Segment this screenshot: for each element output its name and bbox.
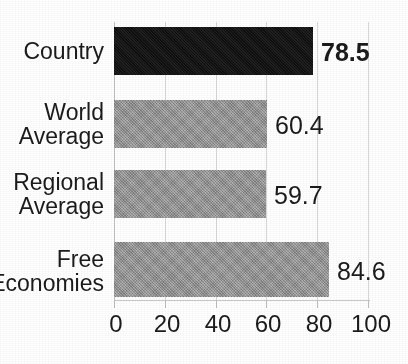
category-label-regional-average: Regional Average bbox=[13, 171, 104, 218]
x-tick-100 bbox=[368, 300, 369, 308]
x-tick-60 bbox=[266, 300, 267, 308]
bar-world-average bbox=[114, 100, 267, 148]
x-tick-40 bbox=[216, 300, 217, 308]
x-tick-80 bbox=[317, 300, 318, 308]
value-label-regional-average: 59.7 bbox=[274, 183, 323, 208]
bar-fill bbox=[114, 100, 267, 148]
bar-fill bbox=[114, 27, 313, 75]
category-label-world-average: World Average bbox=[19, 101, 104, 148]
category-label-line1: Regional bbox=[13, 171, 104, 195]
x-axis-line bbox=[114, 300, 370, 301]
category-label-line2: Average bbox=[13, 195, 104, 219]
category-label-country: Country bbox=[23, 40, 104, 64]
category-label-line1: Country bbox=[23, 40, 104, 64]
category-label-line2: Average bbox=[19, 125, 104, 149]
category-label-line1: Free bbox=[0, 248, 104, 272]
bar-chart: 78.5 60.4 59.7 84.6 Country World Averag… bbox=[0, 0, 408, 364]
bar-regional-average bbox=[114, 170, 266, 218]
bar-free-economies bbox=[114, 242, 329, 297]
x-tick-label-0: 0 bbox=[109, 310, 122, 338]
x-tick-label-20: 20 bbox=[154, 310, 181, 338]
bar-fill bbox=[114, 170, 266, 218]
category-label-free-economies: Free Economies bbox=[0, 248, 104, 295]
x-tick-label-100: 100 bbox=[351, 310, 391, 338]
x-tick-label-40: 40 bbox=[205, 310, 232, 338]
bar-country bbox=[114, 27, 313, 75]
x-tick-label-60: 60 bbox=[255, 310, 282, 338]
value-label-country: 78.5 bbox=[321, 40, 370, 65]
value-label-free-economies: 84.6 bbox=[337, 259, 386, 284]
chart-title-cropped bbox=[0, 0, 408, 9]
category-label-line2: Economies bbox=[0, 272, 104, 296]
category-label-line1: World bbox=[19, 101, 104, 125]
value-label-world-average: 60.4 bbox=[275, 113, 324, 138]
x-tick-20 bbox=[165, 300, 166, 308]
bar-fill bbox=[114, 242, 329, 297]
x-tick-label-80: 80 bbox=[306, 310, 333, 338]
x-tick-0 bbox=[114, 300, 115, 308]
